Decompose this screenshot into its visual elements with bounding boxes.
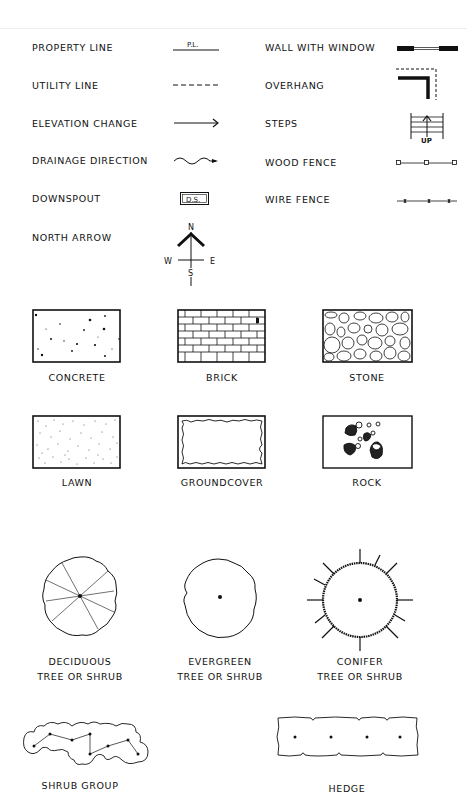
concrete-swatch bbox=[32, 309, 122, 364]
label-shrub-group: SHRUB GROUP bbox=[30, 780, 130, 791]
svg-text:UP: UP bbox=[421, 137, 432, 145]
label-downspout: DOWNSPOUT bbox=[32, 193, 101, 203]
label-north-arrow: NORTH ARROW bbox=[32, 232, 112, 242]
utility-line-icon bbox=[173, 80, 219, 90]
svg-text:P.L.: P.L. bbox=[187, 41, 198, 49]
label-deciduous-line2: TREE OR SHRUB bbox=[30, 671, 130, 682]
label-concrete: CONCRETE bbox=[32, 372, 122, 383]
label-conifer-line1: CONIFER bbox=[310, 656, 410, 667]
north-arrow-icon: N W E S bbox=[160, 220, 220, 286]
label-elevation-change: ELEVATION CHANGE bbox=[32, 118, 138, 128]
overhang-icon bbox=[396, 68, 438, 102]
label-hedge: HEDGE bbox=[297, 783, 397, 794]
label-evergreen-line2: TREE OR SHRUB bbox=[170, 671, 270, 682]
rock-swatch bbox=[322, 415, 414, 470]
label-overhang: OVERHANG bbox=[265, 80, 324, 90]
shrub-group-icon bbox=[20, 718, 155, 768]
label-deciduous-line1: DECIDUOUS bbox=[30, 656, 130, 667]
north-label: N bbox=[188, 223, 194, 232]
evergreen-tree-icon bbox=[178, 557, 262, 643]
wall-window-icon bbox=[397, 44, 459, 54]
groundcover-swatch bbox=[177, 415, 267, 470]
brick-swatch bbox=[177, 309, 267, 364]
lawn-swatch bbox=[32, 415, 122, 470]
label-wood-fence: WOOD FENCE bbox=[265, 157, 337, 167]
elevation-arrow-icon bbox=[174, 117, 220, 129]
wood-fence-icon bbox=[396, 158, 458, 168]
property-line-icon: P.L. bbox=[173, 38, 219, 54]
label-conifer-line2: TREE OR SHRUB bbox=[310, 671, 410, 682]
label-rock: ROCK bbox=[322, 477, 412, 488]
steps-icon: UP bbox=[411, 113, 445, 143]
wire-fence-icon bbox=[397, 196, 459, 206]
svg-text:W: W bbox=[164, 257, 172, 266]
label-groundcover: GROUNDCOVER bbox=[177, 477, 267, 488]
label-drainage-direction: DRAINAGE DIRECTION bbox=[32, 155, 148, 165]
label-lawn: LAWN bbox=[32, 477, 122, 488]
label-wire-fence: WIRE FENCE bbox=[265, 194, 330, 204]
svg-text:S: S bbox=[188, 269, 193, 278]
conifer-tree-icon bbox=[305, 547, 415, 653]
label-property-line: PROPERTY LINE bbox=[32, 42, 113, 52]
label-wall-with-window: WALL WITH WINDOW bbox=[265, 42, 375, 52]
label-steps: STEPS bbox=[265, 118, 298, 128]
top-edge bbox=[0, 0, 467, 29]
label-utility-line: UTILITY LINE bbox=[32, 80, 99, 90]
label-stone: STONE bbox=[322, 372, 412, 383]
stone-swatch bbox=[322, 309, 414, 364]
hedge-icon bbox=[275, 715, 421, 761]
drainage-wavy-arrow-icon bbox=[174, 155, 220, 167]
svg-text:D.S.: D.S. bbox=[186, 196, 200, 204]
label-evergreen-line1: EVERGREEN bbox=[170, 656, 270, 667]
svg-text:E: E bbox=[210, 257, 215, 266]
deciduous-tree-icon bbox=[38, 555, 122, 641]
downspout-box-icon: D.S. bbox=[180, 192, 210, 206]
label-brick: BRICK bbox=[177, 372, 267, 383]
